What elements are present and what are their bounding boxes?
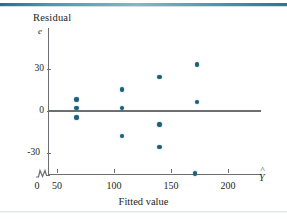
y-axis-variable-symbol: e — [38, 26, 42, 36]
data-point — [193, 171, 197, 175]
y-tick-mark-minus30 — [47, 153, 51, 154]
x-tick-mark-150 — [171, 169, 172, 173]
x-tick-label-50: 50 — [45, 180, 69, 191]
x-axis-variable-symbol: ^Y — [259, 172, 265, 183]
x-tick-mark-50 — [57, 169, 58, 173]
data-point — [120, 106, 124, 110]
y-tick-mark-30 — [47, 69, 51, 70]
x-axis-variable-hat: ^ — [261, 165, 265, 175]
residual-scatter-plot: Residual e 30 0 -30 0 50 100 150 200 ^Y … — [0, 0, 287, 219]
x-axis-line — [48, 174, 261, 175]
x-tick-mark-100 — [114, 169, 115, 173]
x-axis-title: Fitted value — [0, 196, 287, 207]
data-point — [195, 100, 199, 104]
data-point — [74, 106, 78, 110]
data-point — [157, 145, 161, 149]
zero-reference-line — [48, 110, 261, 112]
y-tick-mark-0 — [47, 111, 51, 112]
y-tick-label-30: 30 — [18, 63, 44, 73]
x-tick-label-150: 150 — [159, 180, 183, 191]
x-tick-label-200: 200 — [216, 180, 240, 191]
page-bottom-rule-soft — [0, 212, 287, 213]
data-point — [120, 134, 124, 138]
data-point — [157, 75, 161, 79]
data-point — [195, 62, 199, 66]
x-tick-mark-200 — [228, 169, 229, 173]
y-tick-label-0: 0 — [18, 105, 44, 115]
data-point — [157, 122, 161, 126]
x-tick-label-100: 100 — [102, 180, 126, 191]
y-tick-label-minus30: -30 — [14, 147, 40, 157]
data-point — [120, 87, 124, 91]
y-axis-title: Residual — [33, 12, 71, 23]
data-point — [74, 115, 78, 119]
axis-break-zigzag-icon — [35, 168, 51, 178]
data-point — [74, 97, 78, 101]
